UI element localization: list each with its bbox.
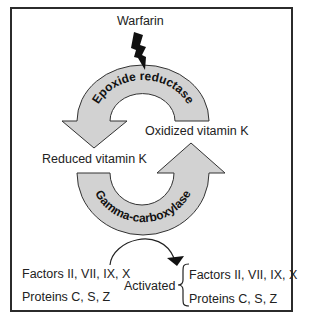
activated-label: Activated: [124, 280, 175, 293]
reduced-vitamin-k-label: Reduced vitamin K: [42, 153, 147, 166]
output-factors-label: Factors II, VII, IX, X: [189, 269, 297, 282]
lightning-bolt-icon: [131, 32, 146, 70]
activated-brace: [178, 264, 189, 306]
activation-arrow: [110, 239, 184, 266]
oxidized-vitamin-k-label: Oxidized vitamin K: [145, 125, 249, 138]
input-proteins-label: Proteins C, S, Z: [22, 291, 110, 304]
input-factors-label: Factors II, VII, IX, X: [22, 268, 130, 281]
warfarin-label: Warfarin: [117, 15, 164, 28]
output-proteins-label: Proteins C, S, Z: [189, 293, 277, 306]
